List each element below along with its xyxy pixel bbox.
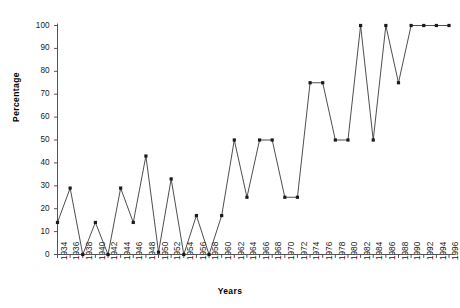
data-line	[58, 26, 450, 255]
data-point	[157, 251, 160, 254]
data-point	[119, 186, 122, 189]
data-point	[422, 24, 425, 27]
data-point	[435, 24, 438, 27]
data-point	[258, 138, 261, 141]
plot-area	[0, 0, 460, 308]
data-point	[233, 138, 236, 141]
data-point	[308, 81, 311, 84]
data-point	[132, 221, 135, 224]
data-point	[69, 186, 72, 189]
data-point	[334, 138, 337, 141]
data-point	[296, 196, 299, 199]
data-point	[144, 154, 147, 157]
data-point	[397, 81, 400, 84]
data-point	[195, 214, 198, 217]
line-chart: Percentage Years 0102030405060708090100 …	[0, 0, 460, 308]
data-point	[410, 24, 413, 27]
data-point	[106, 253, 109, 256]
data-point	[359, 24, 362, 27]
data-point	[384, 24, 387, 27]
data-point	[182, 253, 185, 256]
data-point	[447, 24, 450, 27]
data-point	[170, 177, 173, 180]
data-point	[245, 196, 248, 199]
data-point	[372, 138, 375, 141]
data-point	[321, 81, 324, 84]
data-point	[207, 253, 210, 256]
data-point	[81, 253, 84, 256]
data-point	[283, 196, 286, 199]
data-point	[346, 138, 349, 141]
data-point	[220, 214, 223, 217]
data-point	[271, 138, 274, 141]
data-point	[94, 221, 97, 224]
data-point	[56, 221, 59, 224]
